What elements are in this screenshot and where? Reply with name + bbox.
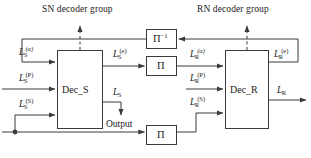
signal-r-output: LR <box>277 86 287 96</box>
signal-r-apriori-sup: (α) <box>197 47 205 54</box>
signal-r-parity: LR(P) <box>190 74 208 84</box>
signal-r-systematic-sup: (S) <box>197 95 205 102</box>
signal-r-extrinsic-sub: R <box>279 53 283 60</box>
interleaver-top-label: Π <box>157 60 165 71</box>
signal-s-apriori: LS(α) <box>19 48 36 58</box>
deinterleaver-label: Π−1 <box>153 33 168 44</box>
signal-s-apriori-sup: (α) <box>25 45 33 52</box>
signal-r-parity-sub: R <box>195 77 199 84</box>
signal-r-systematic-sub: R <box>195 101 199 108</box>
signal-r-parity-sup: (P) <box>197 71 205 78</box>
signal-r-apriori-sub: R <box>195 53 199 60</box>
signal-r-output-sub: R <box>282 89 286 96</box>
signal-s-extrinsic: LS(e) <box>113 50 129 60</box>
diagram-svg <box>0 0 311 158</box>
wire-r-systematic-in <box>177 113 224 132</box>
deinterleaver-exponent: −1 <box>161 32 168 39</box>
signal-r-apriori: LR(α) <box>190 50 207 60</box>
figure-canvas: SN decoder group RN decoder group Dec_S … <box>0 0 311 158</box>
interleaver-bottom-label: Π <box>157 129 165 140</box>
signal-s-parity: LS(P) <box>19 74 36 84</box>
dec-r-label: Dec_R <box>230 84 258 95</box>
signal-s-extrinsic-sub: S <box>118 53 122 60</box>
sn-decoder-group-title: SN decoder group <box>42 4 113 14</box>
signal-r-extrinsic-sup: (e) <box>281 47 288 54</box>
wire-s-systematic-in <box>15 115 55 132</box>
deinterleaver-pi-glyph: Π <box>153 33 161 44</box>
signal-s-output-sub: S <box>118 91 122 98</box>
output-label: Output <box>106 119 132 129</box>
signal-s-parity-sup: (P) <box>25 71 33 78</box>
wire-s-output <box>103 102 122 115</box>
signal-s-apriori-sub: S <box>24 51 28 58</box>
signal-r-extrinsic: LR(e) <box>274 50 291 60</box>
signal-s-output: LS <box>113 88 122 98</box>
signal-s-systematic-sup: (S) <box>25 97 33 104</box>
signal-s-systematic-sub: S <box>24 103 28 110</box>
junction-dot <box>13 130 18 135</box>
rn-decoder-group-title: RN decoder group <box>197 4 269 14</box>
signal-s-extrinsic-sup: (e) <box>119 47 126 54</box>
signal-s-systematic: LS(S) <box>19 100 36 110</box>
signal-s-parity-sub: S <box>24 77 28 84</box>
dec-s-label: Dec_S <box>62 84 89 95</box>
signal-r-systematic: LR(S) <box>190 98 208 108</box>
